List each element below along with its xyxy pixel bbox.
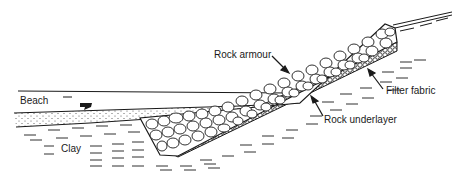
- label-clay: Clay: [61, 144, 81, 154]
- crest-surface: [393, 12, 452, 31]
- revetment-diagram: Beach Clay Rock armour Filter fabric Roc…: [0, 0, 469, 177]
- label-rock-underlayer: Rock underlayer: [324, 115, 397, 125]
- armour-rocks: [146, 28, 395, 151]
- water-line: [18, 91, 290, 93]
- arrow-head-filter-fabric: [368, 69, 375, 76]
- label-rock-armour: Rock armour: [214, 50, 271, 60]
- beach-arrow-icon: [80, 103, 92, 110]
- label-filter-fabric: Filter fabric: [386, 86, 435, 96]
- label-beach: Beach: [20, 96, 48, 106]
- arrow-head-rock-underlayer: [311, 96, 318, 103]
- arrow-head-rock-armour: [281, 66, 289, 73]
